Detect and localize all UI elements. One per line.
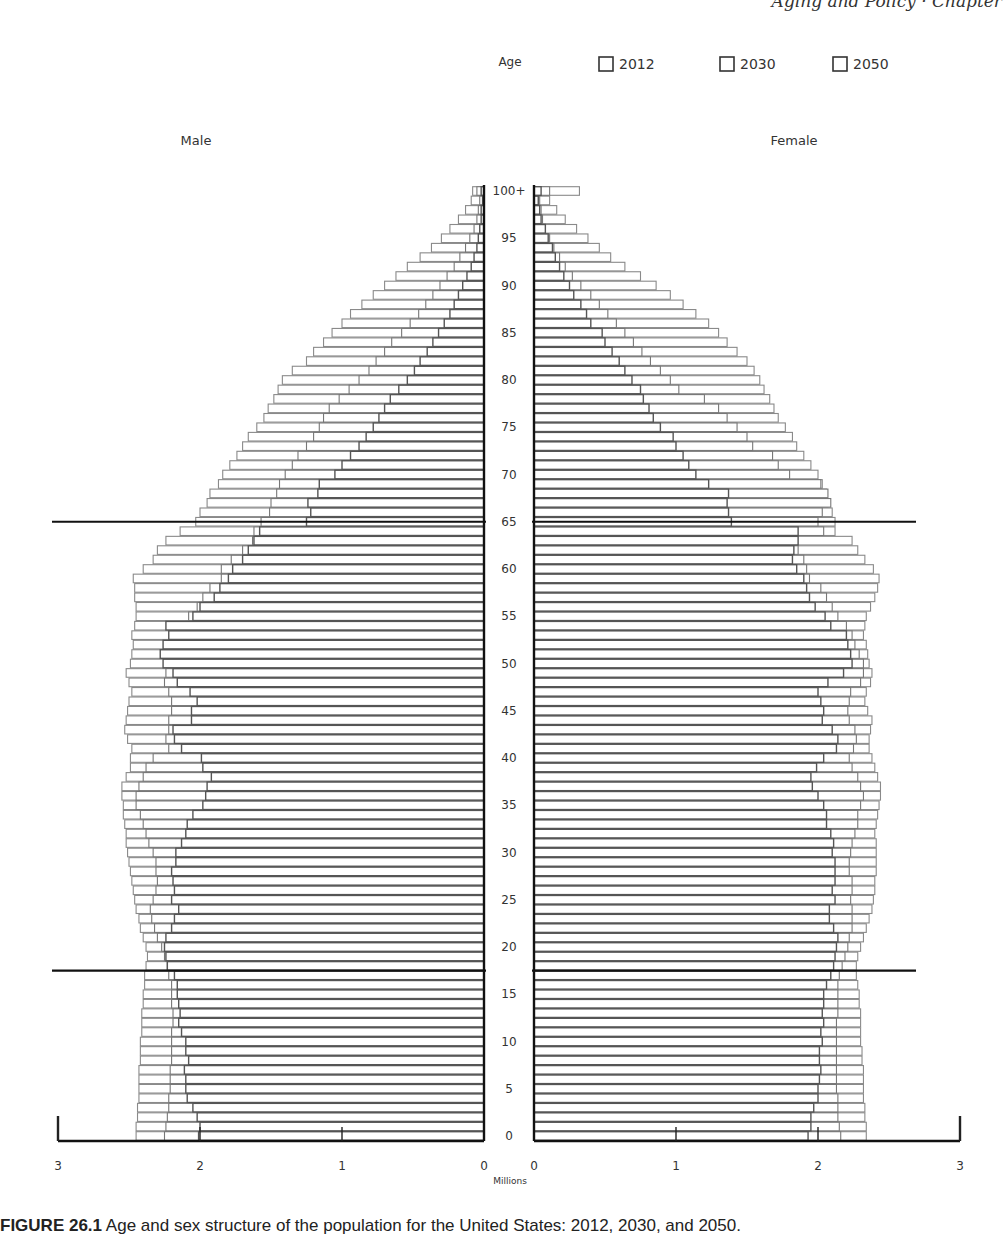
bar-male-2012 (165, 943, 485, 952)
age-tick-label: 10 (501, 1035, 516, 1049)
bar-male-2012 (166, 621, 484, 630)
x-tick-label: 1 (672, 1159, 680, 1173)
bar-male-2012 (193, 810, 484, 819)
bar-male-2012 (420, 357, 484, 366)
bar-male-2012 (308, 499, 484, 508)
bar-male-2012 (366, 432, 484, 441)
bar-male-2012 (379, 414, 484, 423)
bar-female-2012 (534, 678, 828, 687)
bar-female-2012 (534, 1018, 824, 1027)
bar-male-2012 (186, 1084, 484, 1093)
figure-caption: FIGURE 26.1 Age and sex structure of the… (0, 1216, 741, 1236)
bar-male-2012 (187, 820, 484, 829)
bar-female-2012 (534, 385, 641, 394)
bar-female-2012 (534, 243, 552, 252)
bar-male-2012 (211, 773, 484, 782)
figure-caption-label: FIGURE 26.1 (0, 1216, 102, 1235)
bar-female-2012 (534, 376, 632, 385)
bar-female-2012 (534, 612, 825, 621)
bar-male-2012 (177, 981, 484, 990)
bar-male-2012 (179, 905, 484, 914)
age-tick-label: 55 (501, 609, 516, 623)
bar-female-2012 (534, 546, 794, 555)
bar-female-2012 (534, 999, 824, 1008)
bar-male-2012 (233, 565, 484, 574)
bar-female-2012 (534, 924, 834, 933)
bar-male-2012 (385, 404, 484, 413)
bar-female-2012 (534, 650, 851, 659)
bar-male-2012 (182, 744, 484, 753)
bar-male-2012 (450, 310, 484, 319)
bar-male-2012 (474, 253, 484, 262)
bar-female-2012 (534, 225, 545, 234)
age-tick-label: 40 (501, 751, 516, 765)
x-tick-label: 3 (54, 1159, 62, 1173)
bar-female-2012 (534, 886, 832, 895)
age-tick-label: 5 (505, 1082, 513, 1096)
bar-male-2012 (173, 725, 484, 734)
bar-female-2012 (534, 631, 846, 640)
bar-female-2012 (534, 527, 798, 536)
bar-female-2012 (534, 508, 729, 517)
bar-female-2012 (534, 300, 581, 309)
bar-female-2012 (534, 584, 807, 593)
bar-male-2012 (174, 971, 484, 980)
bar-female-2012 (534, 773, 811, 782)
legend: 2012 2030 2050 (599, 56, 889, 72)
age-tick-label: 60 (501, 562, 516, 576)
bar-male-2012 (176, 858, 484, 867)
bar-female-2012 (534, 1047, 819, 1056)
bar-male-2012 (186, 1047, 484, 1056)
bar-female-2012 (534, 1009, 822, 1018)
bar-male-2012 (174, 886, 484, 895)
age-axis-title: Age (498, 55, 521, 69)
age-tick-label: 25 (501, 893, 516, 907)
bar-male-2012 (197, 697, 484, 706)
bar-male-2012 (407, 376, 484, 385)
age-tick-label: 20 (501, 940, 516, 954)
age-tick-label: 80 (501, 373, 516, 387)
bar-female-2012 (534, 1066, 821, 1075)
bar-female-2012 (534, 782, 812, 791)
x-tick-label: 0 (480, 1159, 488, 1173)
bar-female-2012 (534, 1122, 811, 1131)
bar-female-2012 (534, 688, 818, 697)
bar-male-2012 (174, 735, 484, 744)
bar-male-2012 (359, 442, 484, 451)
figure-caption-text: Age and sex structure of the population … (106, 1216, 741, 1235)
bar-male-2012 (214, 593, 484, 602)
bar-male-2012 (463, 281, 484, 290)
age-tick-label: 65 (501, 515, 516, 529)
bar-male-2012 (260, 527, 484, 536)
bar-female-2012 (534, 461, 689, 470)
x-tick-label: 0 (530, 1159, 538, 1173)
bar-female-2012 (534, 640, 848, 649)
bar-male-2012 (163, 640, 484, 649)
bar-male-2012 (399, 385, 484, 394)
bar-female-2012 (534, 858, 835, 867)
bar-female-2012 (534, 253, 555, 262)
bar-male-2012 (203, 801, 484, 810)
legend-swatch-2030 (720, 57, 734, 71)
bar-male-2012 (228, 574, 484, 583)
bar-male-2012 (186, 829, 484, 838)
legend-swatch-2012 (599, 57, 613, 71)
bar-female-2012 (534, 281, 570, 290)
bar-female-2012 (534, 839, 834, 848)
bar-female-2012 (534, 234, 548, 243)
bar-female-2012 (534, 480, 709, 489)
bar-female-2012 (534, 725, 832, 734)
bar-female-2012 (534, 347, 612, 356)
bar-female-2012 (534, 820, 827, 829)
bar-male-2012 (163, 659, 484, 668)
bar-male-2012 (207, 782, 484, 791)
bar-female-2012 (534, 971, 831, 980)
bar-female-2012 (534, 603, 815, 612)
bar-male-2012 (335, 470, 484, 479)
bar-female-2012 (534, 621, 831, 630)
bar-female-2012 (534, 536, 798, 545)
x-tick-label: 2 (814, 1159, 822, 1173)
bar-male-2012 (206, 792, 484, 801)
bar-male-2012 (454, 300, 484, 309)
bar-female-2012 (534, 933, 838, 942)
